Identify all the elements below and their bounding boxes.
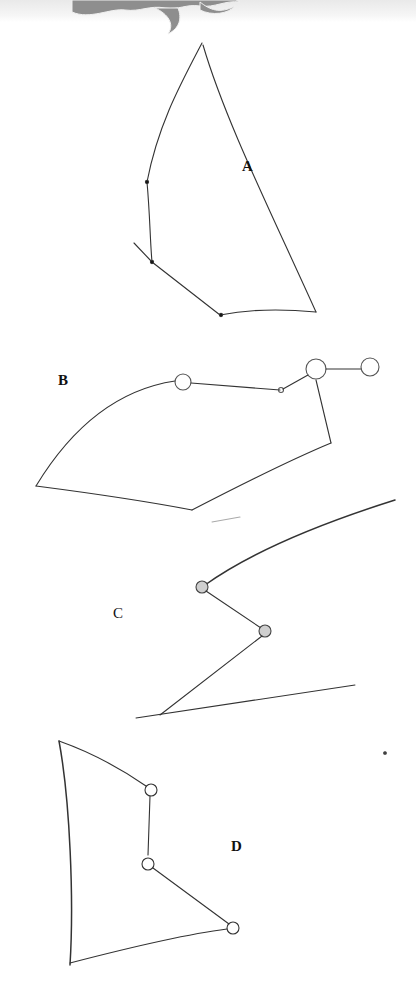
figure-c xyxy=(136,500,395,718)
figure-b xyxy=(36,358,379,510)
figure-a xyxy=(134,43,316,317)
figure-label-a: A xyxy=(242,158,253,175)
figure-label-d: D xyxy=(231,838,242,855)
diagram-canvas xyxy=(0,0,416,997)
figure-label-b: B xyxy=(58,372,68,389)
figure-d xyxy=(59,741,386,965)
figure-label-c: C xyxy=(113,605,123,622)
flame-ornament-icon xyxy=(72,0,240,34)
